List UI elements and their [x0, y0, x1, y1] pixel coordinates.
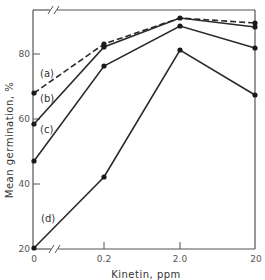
- marker-a-2: [177, 15, 182, 20]
- ytick-label-60: 60: [19, 114, 31, 124]
- x-ticks: [104, 242, 180, 249]
- series-d-line: [34, 50, 255, 248]
- ytick-label-40: 40: [19, 179, 31, 189]
- marker-c-0: [31, 158, 36, 163]
- marker-c-2: [177, 23, 182, 28]
- xtick-label-0.2: 0.2: [97, 254, 111, 264]
- series-label-b: (b): [40, 93, 54, 104]
- xtick-label-20: 20: [250, 254, 262, 264]
- series-label-c: (c): [40, 124, 53, 135]
- series-c-line: [34, 26, 255, 161]
- marker-c-3: [252, 45, 257, 50]
- marker-d-2: [177, 47, 182, 52]
- marker-d-0: [31, 245, 36, 250]
- ytick-label-20: 20: [19, 244, 31, 254]
- marker-c-1: [101, 63, 106, 68]
- xtick-label-0: 0: [31, 254, 37, 264]
- series-label-a: (a): [40, 68, 54, 79]
- marker-b-0: [31, 121, 36, 126]
- series-a-line: [34, 18, 255, 93]
- marker-d-1: [101, 174, 106, 179]
- marker-a-0: [31, 90, 36, 95]
- y-axis-title: Mean germination, %: [4, 82, 15, 198]
- x-axis-title: Kinetin, ppm: [111, 269, 181, 280]
- marker-d-3: [252, 92, 257, 97]
- germination-chart: 80 60 40 20 0 0.2 2.0 20 Kinetin, ppm Me…: [0, 0, 265, 280]
- ytick-label-80: 80: [19, 49, 31, 59]
- series-lines: [34, 18, 255, 248]
- series-label-d: (d): [41, 213, 55, 224]
- marker-b-1: [101, 44, 106, 49]
- marker-b-3: [252, 24, 257, 29]
- xtick-label-2.0: 2.0: [173, 254, 188, 264]
